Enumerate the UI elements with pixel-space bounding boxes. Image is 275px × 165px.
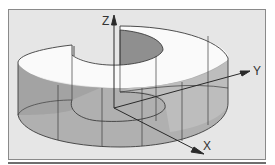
x-axis-label: X bbox=[203, 139, 211, 153]
z-axis-label: Z bbox=[102, 14, 109, 28]
bottom-rule bbox=[8, 162, 266, 164]
y-axis-label: Y bbox=[253, 64, 261, 78]
s-surface-diagram: Z Y X bbox=[0, 0, 275, 165]
